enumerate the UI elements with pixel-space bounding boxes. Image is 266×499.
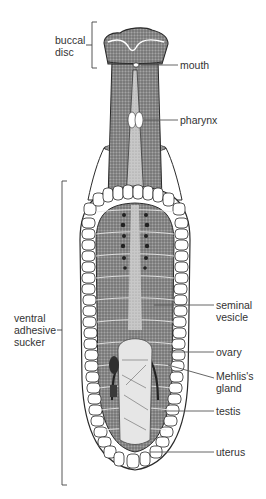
label-testis: testis: [216, 405, 241, 417]
neck: [108, 60, 162, 200]
organism-illustration: [0, 0, 266, 499]
ventral-sucker: [80, 185, 190, 470]
ventral-sucker-bracket: [57, 181, 67, 485]
label-seminal-vesicle: seminal vesicle: [216, 299, 252, 323]
mouth-opening: [133, 63, 139, 67]
label-mouth: mouth: [180, 59, 209, 71]
label-ovary: ovary: [216, 346, 242, 358]
label-ventral-adhesive-sucker: ventral adhesive sucker: [14, 312, 56, 348]
label-uterus: uterus: [216, 446, 245, 458]
label-buccal-disc: buccal disc: [55, 34, 85, 58]
buccal-disc-shape: [104, 28, 168, 67]
label-mehlis-gland: Mehlis's gland: [216, 370, 254, 394]
buccal-disc-bracket: [86, 22, 97, 68]
organism-diagram: buccal disc mouth pharynx ventral adhesi…: [0, 0, 266, 499]
label-pharynx: pharynx: [180, 114, 217, 126]
